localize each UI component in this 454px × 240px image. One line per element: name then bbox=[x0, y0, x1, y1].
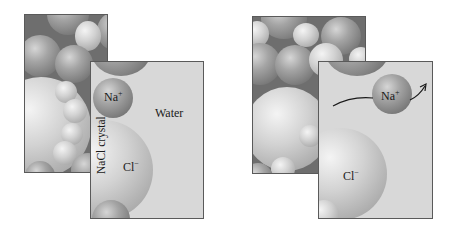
left-water-panel: Na+ Water Cl− NaCl crystal bbox=[90, 61, 204, 219]
na-ion-label: Na+ bbox=[104, 89, 123, 105]
curved-arrow-icon bbox=[319, 62, 433, 219]
nacl-crystal-label: NaCl crystal bbox=[95, 116, 107, 174]
cl-ion-sphere bbox=[63, 99, 87, 123]
na-ion-sphere-top bbox=[91, 61, 151, 76]
cl-ion-sphere bbox=[293, 23, 319, 47]
right-water-panel: Na+ Cl− bbox=[318, 61, 433, 219]
cl-ion-label: Cl− bbox=[123, 159, 139, 175]
cl-ion-sphere bbox=[271, 157, 295, 174]
water-label: Water bbox=[155, 106, 183, 121]
na-ion-sphere bbox=[55, 45, 93, 83]
